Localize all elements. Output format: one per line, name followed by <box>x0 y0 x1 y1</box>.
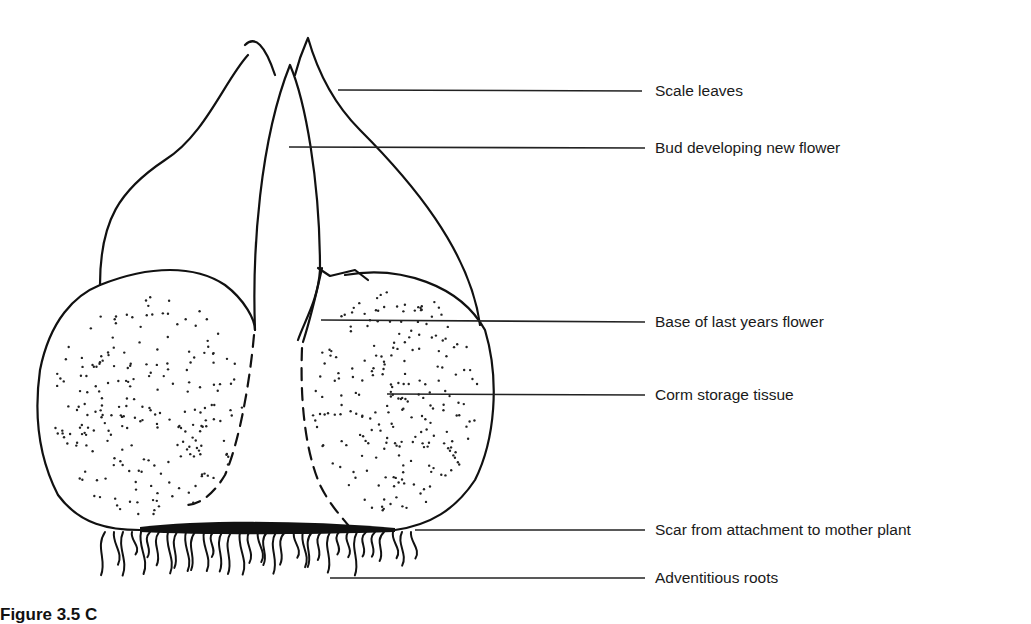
stipple-dot <box>456 343 458 345</box>
stipple-dot <box>201 473 203 475</box>
stipple-dot <box>411 349 413 351</box>
stipple-dot <box>186 448 188 450</box>
stipple-dot <box>383 498 385 500</box>
stipple-dot <box>408 383 410 385</box>
stipple-dot <box>372 374 374 376</box>
root-strand <box>185 532 189 571</box>
stipple-dot <box>148 407 150 409</box>
stipple-dot <box>117 380 119 382</box>
stipple-dot <box>383 306 385 308</box>
stipple-dot <box>371 506 373 508</box>
left-leaf-tip <box>245 41 275 75</box>
stipple-dot <box>376 297 378 299</box>
stipple-dot <box>373 345 375 347</box>
stipple-dot <box>358 394 360 396</box>
stipple-dot <box>414 309 416 311</box>
stipple-dot <box>149 409 151 411</box>
stipple-dot <box>319 413 321 415</box>
stipple-dot <box>182 441 184 443</box>
stipple-dot <box>200 445 202 447</box>
stipple-dot <box>76 409 78 411</box>
stipple-dot <box>107 430 109 432</box>
stipple-dot <box>404 373 406 375</box>
root-strand <box>140 532 145 574</box>
stipple-dot <box>378 484 380 486</box>
stipple-dot <box>137 513 139 515</box>
stipple-dot <box>162 312 164 314</box>
stipple-dot <box>148 375 150 377</box>
stipple-dot <box>457 461 459 463</box>
stipple-dot <box>231 414 233 416</box>
stipple-dot <box>414 436 416 438</box>
stipple-dot <box>146 314 148 316</box>
stipple-dot <box>156 500 158 502</box>
stipple-dot <box>321 396 323 398</box>
figure-caption: Figure 3.5 C <box>0 606 97 623</box>
stipple-dot <box>203 352 205 354</box>
stipple-dot <box>187 390 189 392</box>
stipple-dot <box>200 425 202 427</box>
stipple-dot <box>101 397 103 399</box>
stipple-dot <box>431 315 433 317</box>
stipple-dot <box>473 419 475 421</box>
stipple-dot <box>226 358 228 360</box>
stipple-dot <box>156 492 158 494</box>
label-scale-leaves: Scale leaves <box>655 83 743 99</box>
stipple-dot <box>358 302 360 304</box>
stipple-dot <box>391 386 393 388</box>
stipple-dot <box>79 426 81 428</box>
right-corm-outline <box>345 272 494 530</box>
stipple-dot <box>386 437 388 439</box>
stipple-dot <box>458 414 460 416</box>
stipple-dot <box>75 444 77 446</box>
stipple-dot <box>129 501 131 503</box>
stipple-dot <box>211 404 213 406</box>
stipple-dot <box>339 413 341 415</box>
stipple-dot <box>61 432 63 434</box>
stipple-dot <box>375 309 377 311</box>
stipple-dot <box>113 457 115 459</box>
stipple-dot <box>424 418 426 420</box>
leader-line-base-last-flower <box>321 320 645 322</box>
root-strand <box>273 532 276 574</box>
root-strand <box>380 532 384 561</box>
stipple-dot <box>437 365 439 367</box>
stipple-dot <box>444 337 446 339</box>
stipple-dot <box>81 479 83 481</box>
stipple-dot <box>121 425 123 427</box>
stipple-dot <box>107 382 109 384</box>
stipple-dot <box>227 456 229 458</box>
stipple-dot <box>361 379 363 381</box>
stipple-dot <box>199 386 201 388</box>
stipple-dot <box>394 442 396 444</box>
stipple-dot <box>112 336 114 338</box>
stipple-dot <box>116 504 118 506</box>
root-strand <box>227 532 231 574</box>
stipple-dot <box>446 431 448 433</box>
stipple-dot <box>428 442 430 444</box>
stipple-dot <box>194 485 196 487</box>
stipple-dot <box>99 496 101 498</box>
stipple-dot <box>371 370 373 372</box>
stipple-dot <box>419 307 421 309</box>
leader-line-storage-tissue <box>387 394 645 395</box>
stipple-dot <box>402 471 404 473</box>
stipple-dot <box>381 506 383 508</box>
stipple-dot <box>432 467 434 469</box>
stipple-dot <box>440 313 442 315</box>
stipple-dot <box>429 485 431 487</box>
stipple-dot <box>85 434 87 436</box>
stipple-dot <box>101 359 103 361</box>
stipple-dot <box>219 420 221 422</box>
stipple-dot <box>163 375 165 377</box>
stipple-dot <box>147 305 149 307</box>
stipple-dot <box>401 505 403 507</box>
stipple-dot <box>425 428 427 430</box>
stipple-dot <box>184 411 186 413</box>
stipple-dot <box>196 447 198 449</box>
root-strand <box>411 532 417 558</box>
stipple-dot <box>379 429 381 431</box>
root-strand <box>294 532 299 558</box>
stipple-dot <box>447 326 449 328</box>
stipple-dot <box>57 432 59 434</box>
